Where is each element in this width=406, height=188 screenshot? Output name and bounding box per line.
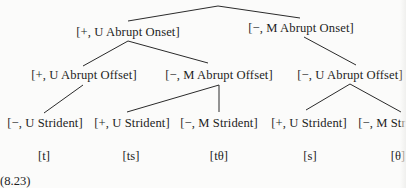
node-abrupt-onset-minus-m: [−, M Abrupt Onset]	[248, 21, 354, 35]
branch-onset-plus-to-offset-minus	[128, 41, 208, 63]
branch-offset-minus-u-to-strident-plus	[306, 84, 350, 110]
page-edge-shadow	[400, 0, 406, 188]
segment-s: [s]	[303, 149, 317, 163]
branch-onset-minus-to-offset-minus-u	[304, 37, 356, 65]
node-abrupt-onset-plus-u: [+, U Abrupt Onset]	[76, 25, 179, 39]
branch-offset-minus-u-to-strident-minus	[350, 84, 401, 112]
branch-offset-plus-to-strident-minus	[44, 85, 83, 113]
node-abrupt-offset-plus-u: [+, U Abrupt Offset]	[31, 68, 136, 82]
node-strident-minus-m-1: [−, M Strident]	[180, 116, 258, 130]
segment-ts: [ts]	[122, 149, 139, 163]
branch-onset-plus-to-offset-plus	[83, 41, 128, 66]
node-strident-plus-u-1: [+, U Strident]	[94, 116, 169, 130]
segment-t-theta: [tθ]	[210, 149, 228, 163]
branch-root-right	[218, 6, 300, 18]
figure-number: (8.23)	[0, 174, 30, 188]
node-strident-minus-u: [−, U Strident]	[7, 116, 82, 130]
node-strident-minus-m-2: [−, M Str	[358, 116, 406, 130]
node-abrupt-offset-minus-m: [−, M Abrupt Offset]	[165, 68, 273, 82]
branch-root-left	[128, 6, 218, 21]
node-strident-plus-u-2: [+, U Strident]	[271, 116, 346, 130]
branch-offset-minus-m-to-strident-plus	[127, 85, 219, 112]
node-abrupt-offset-minus-u: [−, U Abrupt Offset]	[297, 68, 402, 82]
segment-t: [t]	[38, 149, 50, 163]
